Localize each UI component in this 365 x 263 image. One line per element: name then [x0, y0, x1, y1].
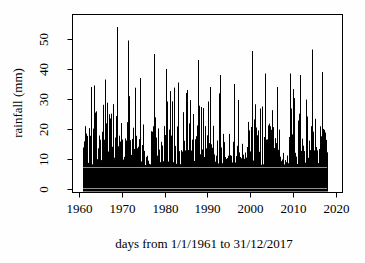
x-tick-label: 1980 — [153, 201, 179, 216]
rainfall-time-series-chart: 1960197019801990200020102020 01020304050… — [0, 0, 365, 263]
y-tick-label: 0 — [36, 186, 51, 193]
y-tick-label: 20 — [36, 123, 51, 136]
rainfall-vertical-lines — [84, 27, 328, 192]
y-tick-label: 10 — [36, 153, 51, 166]
rainfall-plot-window: 1960197019801990200020102020 01020304050… — [0, 0, 365, 263]
x-tick-label: 1970 — [110, 201, 136, 216]
x-axis-title: days from 1/1/1961 to 31/12/2017 — [115, 236, 293, 251]
y-tick-label: 40 — [36, 63, 51, 76]
x-tick-label: 1990 — [195, 201, 221, 216]
rainfall-series — [84, 27, 328, 192]
x-tick-label: 2000 — [238, 201, 264, 216]
x-tick-label: 2010 — [281, 201, 307, 216]
y-tick-label: 30 — [36, 93, 51, 106]
y-axis-title: rainfall (mm) — [10, 68, 25, 138]
x-tick-label: 2020 — [324, 201, 350, 216]
y-tick-label: 50 — [36, 33, 51, 46]
y-axis-ticks: 01020304050 — [36, 33, 73, 193]
x-tick-label: 1960 — [67, 201, 93, 216]
x-axis-ticks: 1960197019801990200020102020 — [67, 193, 350, 217]
